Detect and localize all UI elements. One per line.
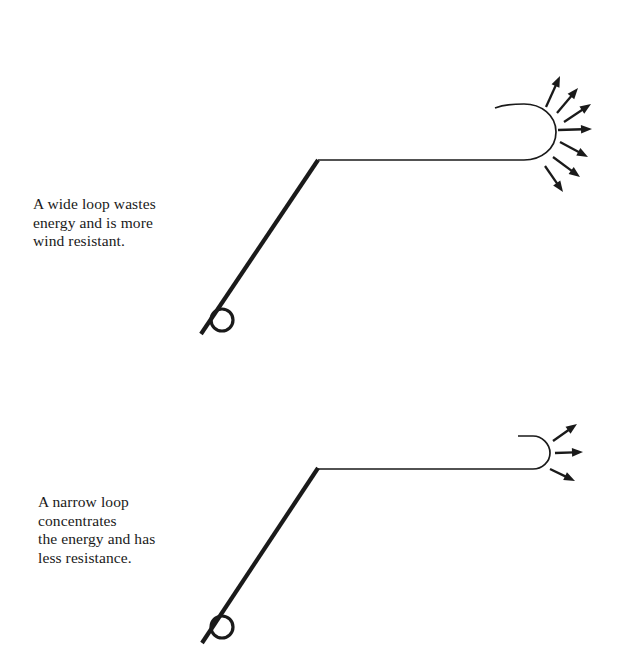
reel-circle xyxy=(211,309,233,331)
energy-arrow-shaft xyxy=(545,166,558,185)
energy-arrow-shaft xyxy=(560,142,580,153)
energy-arrow-shaft xyxy=(553,157,573,172)
energy-arrow-icon xyxy=(555,448,583,457)
energy-arrow-head xyxy=(563,472,575,481)
caption-wide-loop: A wide loop wastes energy and is more wi… xyxy=(33,195,156,251)
energy-arrow-head xyxy=(572,448,583,457)
diagram-canvas: A wide loop wastes energy and is more wi… xyxy=(0,0,628,669)
caption-line: the energy and has xyxy=(38,530,155,549)
energy-arrow-icon xyxy=(564,104,591,122)
caption-narrow-loop: A narrow loop concentrates the energy an… xyxy=(38,493,155,567)
casting-loops-drawing xyxy=(0,0,628,669)
energy-arrow-icon xyxy=(553,424,577,441)
energy-arrow-head xyxy=(552,76,560,88)
energy-arrow-shaft xyxy=(557,95,572,113)
energy-arrow-icon xyxy=(545,166,563,192)
figure-wide-loop xyxy=(201,76,592,334)
energy-arrow-head xyxy=(579,104,591,114)
figure-narrow-loop xyxy=(202,424,583,643)
caption-line: A wide loop wastes xyxy=(33,195,156,214)
energy-arrow-shaft xyxy=(555,452,574,453)
energy-arrow-icon xyxy=(546,76,560,107)
fly-line-narrow-loop xyxy=(318,436,550,469)
energy-arrow-head xyxy=(553,181,563,192)
caption-line: A narrow loop xyxy=(38,493,155,512)
energy-arrow-shaft xyxy=(564,109,584,122)
energy-arrow-icon xyxy=(550,469,575,481)
caption-line: energy and is more xyxy=(33,214,156,233)
energy-arrow-icon xyxy=(557,88,578,113)
energy-arrow-icon xyxy=(553,157,580,177)
energy-arrow-head xyxy=(566,424,577,434)
energy-arrow-icon xyxy=(560,142,588,157)
caption-line: wind resistant. xyxy=(33,232,156,251)
energy-arrow-shaft xyxy=(546,84,556,107)
energy-arrow-head xyxy=(581,125,592,134)
energy-arrow-head xyxy=(576,148,588,157)
fly-line-wide-loop xyxy=(318,104,556,160)
energy-arrow-shaft xyxy=(553,429,570,441)
energy-arrow-shaft xyxy=(550,469,567,477)
energy-arrow-shaft xyxy=(558,129,583,130)
caption-line: concentrates xyxy=(38,512,155,531)
caption-line: less resistance. xyxy=(38,549,155,568)
energy-arrow-icon xyxy=(558,125,592,134)
